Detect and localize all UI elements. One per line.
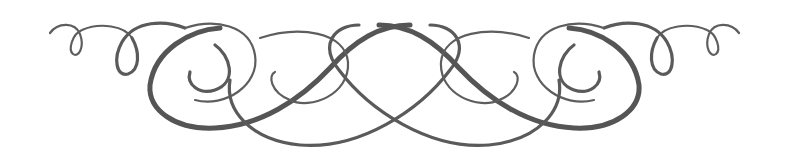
flourish-divider: [0, 0, 789, 159]
flourish-ornament: [0, 0, 789, 159]
right-flourish: [330, 23, 739, 145]
left-flourish: [50, 23, 459, 145]
